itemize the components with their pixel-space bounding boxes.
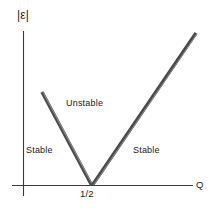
y-axis-label: |ε| (17, 9, 29, 22)
region-label-stable-right: Stable (133, 145, 160, 156)
region-label-unstable: Unstable (66, 98, 103, 109)
plot-canvas (0, 0, 214, 214)
right-boundary-highlight (94, 34, 197, 185)
x-tick-label-half: 1/2 (80, 188, 94, 199)
x-axis-label: Q (196, 179, 204, 190)
stability-diagram-figure: |ε| Q 1/2 Unstable Stable Stable (0, 0, 214, 214)
region-label-stable-left: Stable (26, 145, 53, 156)
right-boundary-line (93, 33, 197, 185)
